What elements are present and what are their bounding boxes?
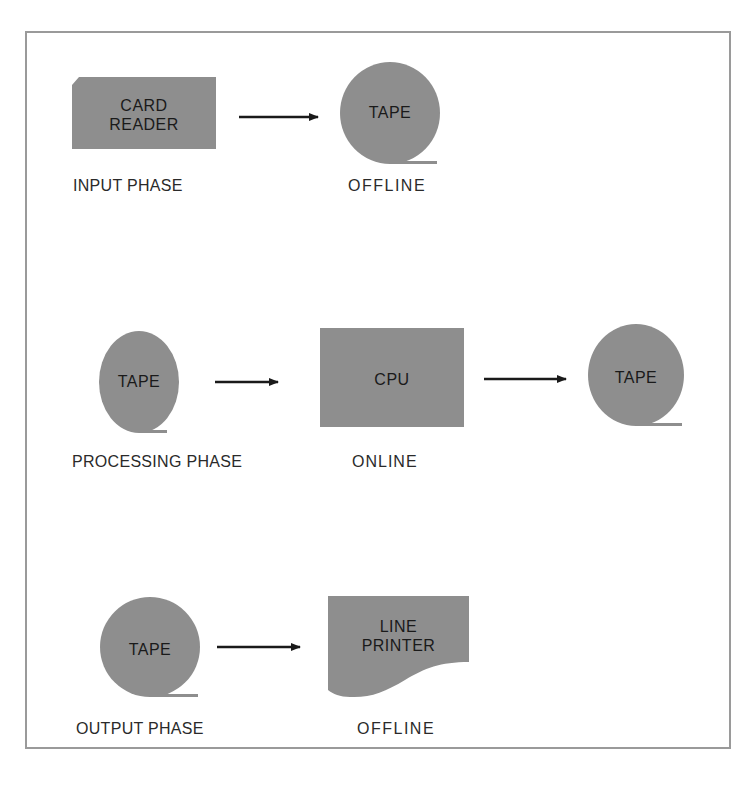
card-reader-label: CARD READER [72,96,216,134]
processing-phase-mode: ONLINE [352,453,418,471]
processing-phase-caption: PROCESSING PHASE [72,453,242,471]
line-printer-label: LINE PRINTER [328,617,469,655]
tape-processing-source-label: TAPE [99,372,179,391]
cpu-label-text: CPU [320,370,464,389]
card-reader-label-line-1: CARD [72,96,216,115]
output-phase-mode: OFFLINE [357,720,435,738]
card-reader-label-line-2: READER [72,115,216,134]
cpu-label: CPU [320,370,464,389]
tape-processing-destination-label-text: TAPE [588,368,684,387]
line-printer-label-line-2: PRINTER [328,636,469,655]
tape-input-label-text: TAPE [340,103,440,122]
input-phase-mode: OFFLINE [348,177,426,195]
input-phase-caption: INPUT PHASE [73,177,183,195]
tape-output-label: TAPE [100,640,200,659]
tape-input-label: TAPE [340,103,440,122]
line-printer-label-line-1: LINE [328,617,469,636]
tape-processing-source-label-text: TAPE [99,372,179,391]
tape-output-label-text: TAPE [100,640,200,659]
tape-processing-destination-label: TAPE [588,368,684,387]
output-phase-caption: OUTPUT PHASE [76,720,204,738]
